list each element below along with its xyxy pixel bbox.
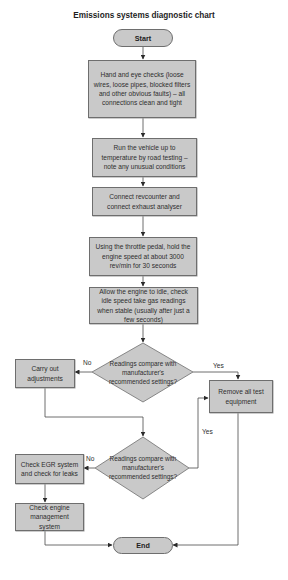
end-node: End [113,537,173,554]
step-remove-test-equipment-text: Remove all test equipment [214,387,268,406]
step-check-egr-text: Check EGR system and check for leaks [20,460,79,479]
step-hand-eye-checks-text: Hand and eye checks (loose wires, loose … [93,70,191,108]
step-hand-eye-checks: Hand and eye checks (loose wires, loose … [88,60,196,118]
step-carry-out-adjustments-text: Carry out adjustments [20,364,70,383]
step-remove-test-equipment: Remove all test equipment [209,380,273,413]
step-idle-readings: Allow the engine to idle, check idle spe… [89,287,198,324]
step-connect-equipment: Connect revcounter and connect exhaust a… [92,187,197,216]
start-node: Start [113,29,173,47]
step-check-engine-management: Check engine management system [15,503,84,531]
step-road-test: Run the vehicle up to temperature by roa… [92,138,197,177]
decision-1-yes-label: Yes [213,362,224,369]
decision-1-text: Readings compare with manufacturer's rec… [108,352,178,392]
decision-1-no-label: No [83,359,91,366]
end-label: End [136,541,150,550]
start-label: Start [135,34,151,43]
step-connect-equipment-text: Connect revcounter and connect exhaust a… [97,192,192,211]
step-idle-readings-text: Allow the engine to idle, check idle spe… [94,287,193,325]
step-hold-engine-speed-text: Using the throttle pedal, hold the engin… [94,242,192,270]
step-check-egr: Check EGR system and check for leaks [15,454,84,484]
decision-2-yes-label: Yes [202,428,213,435]
decision-2-text: Readings compare with manufacturer's rec… [108,447,178,487]
step-road-test-text: Run the vehicle up to temperature by roa… [97,143,192,171]
step-carry-out-adjustments: Carry out adjustments [15,359,75,388]
decision-2-no-label: No [86,455,94,462]
step-hold-engine-speed: Using the throttle pedal, hold the engin… [89,237,197,276]
step-check-engine-management-text: Check engine management system [20,503,79,531]
